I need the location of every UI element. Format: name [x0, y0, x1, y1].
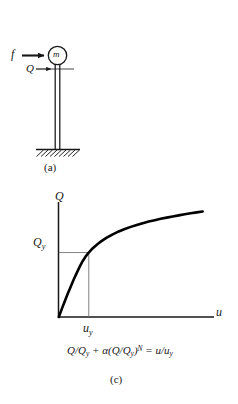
panel-c-chart [59, 202, 215, 318]
qy-base: Q [33, 235, 42, 249]
qy-subscript: y [42, 242, 46, 251]
uy-subscript: y [89, 328, 93, 337]
figure-container: f m Q (a) Q Qy uy u Q/Qy + α(Q/Qy)N = u/… [0, 0, 238, 404]
y-axis-title: Q [55, 190, 64, 202]
column-icon [55, 65, 60, 150]
mass-label-m: m [53, 50, 60, 59]
fixed-base-ground-icon [36, 150, 80, 157]
eq-sub-2: y [131, 349, 134, 358]
force-label-f: f [11, 48, 14, 60]
ramberg-osgood-equation: Q/Qy + α(Q/Qy)N = u/uy [67, 345, 173, 356]
eq-sub-3: y [170, 349, 173, 358]
eq-term-4: = u/u [143, 344, 170, 356]
panel-caption-c: (c) [110, 374, 122, 385]
y-tick-label-qy: Qy [33, 236, 45, 248]
eq-sub-1: y [86, 349, 89, 358]
x-axis-title: u [216, 306, 222, 318]
x-tick-label-uy: uy [83, 322, 93, 334]
eq-term-1: Q/Q [67, 344, 86, 356]
panel-caption-a: (a) [44, 162, 56, 173]
backbone-curve [59, 212, 203, 317]
shear-label-q: Q [26, 63, 34, 74]
eq-term-2: + α(Q/Q [89, 344, 130, 356]
eq-exponent: N [138, 344, 143, 353]
